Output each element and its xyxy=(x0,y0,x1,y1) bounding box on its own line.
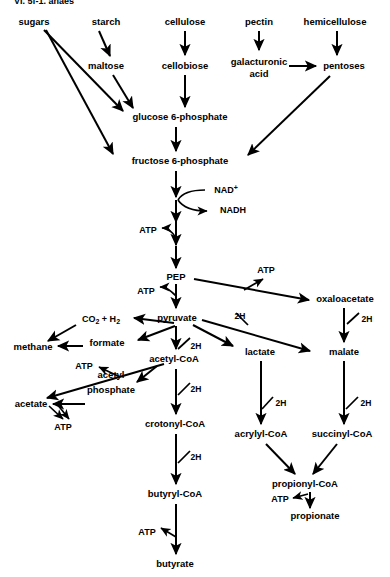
node-atp-propionate: ATP xyxy=(271,494,288,504)
node-acetyl-coa: acetyl-CoA xyxy=(149,353,199,364)
label-2h-oxaloacetate-malate: 2H xyxy=(362,314,373,324)
node-propionate: propionate xyxy=(290,510,339,521)
node-sugars: sugars xyxy=(18,16,49,27)
label-2h-lactate-acrylyl: 2H xyxy=(276,398,287,408)
label-2h-crotonyl-butyryl: 2H xyxy=(191,452,202,462)
edge-pyruvate-acetylcoa xyxy=(176,326,190,349)
edge-atp-pep-left-out xyxy=(160,287,176,296)
label-2h-pyruvate-acetyl: 2H xyxy=(191,341,202,351)
pathway-diagram: VI. 5f-1. anaes xyxy=(0,0,390,577)
edge-co2h2-methane xyxy=(48,325,76,341)
node-co2-h2: CO2 + H2 xyxy=(82,314,120,324)
edge-succinyl-propionyl xyxy=(313,444,337,474)
edge-starch-maltose xyxy=(99,31,110,56)
node-atp-glycolysis: ATP xyxy=(139,225,156,235)
node-pep: PEP xyxy=(166,271,186,282)
node-butyrate: butyrate xyxy=(156,558,193,569)
node-glucose-6-phosphate: glucose 6-phosphate xyxy=(132,111,227,122)
intermediate-labels: maltose cellobiose galacturonic acid pen… xyxy=(87,56,374,499)
edge-lactate-acrylyl xyxy=(261,361,273,424)
node-formate: formate xyxy=(90,337,125,348)
pathway-canvas: sugars starch cellulose pectin hemicellu… xyxy=(0,0,390,577)
node-lactate: lactate xyxy=(245,346,275,357)
node-acrylyl-coa: acrylyl-CoA xyxy=(235,428,288,439)
node-oxaloacetate: oxaloacetate xyxy=(316,293,374,304)
edge-pyruvate-formate xyxy=(138,326,175,340)
node-starch: starch xyxy=(92,16,121,27)
label-2h-acetylcoa-crotonyl: 2H xyxy=(191,384,202,394)
node-fructose-6-phosphate: fructose 6-phosphate xyxy=(132,155,229,166)
node-atp-pep-left: ATP xyxy=(137,286,154,296)
edge-propionyl-propionate xyxy=(293,492,310,508)
edge-nad-input xyxy=(178,190,205,200)
node-malate: malate xyxy=(329,346,359,357)
node-cellulose: cellulose xyxy=(165,16,206,27)
edge-acetylcoa-crotonyl xyxy=(176,369,190,414)
node-atp-butyrate: ATP xyxy=(138,527,155,537)
label-2h-lactate: 2H xyxy=(235,311,246,321)
edge-crotonyl-butyryl xyxy=(176,434,190,484)
node-methane: methane xyxy=(13,341,52,352)
edge-pep-oxaloacetate xyxy=(194,279,309,300)
node-atp-acetate: ATP xyxy=(54,422,71,432)
node-nad-plus: NAD+ xyxy=(214,184,238,196)
edge-atp-acetate-out xyxy=(49,404,69,419)
label-2h-malate-succinyl: 2H xyxy=(361,398,372,408)
node-atp-pep-right: ATP xyxy=(257,265,274,275)
node-pentoses: pentoses xyxy=(323,60,365,71)
edge-nadh-output xyxy=(178,200,207,211)
node-succinyl-coa: succinyl-CoA xyxy=(312,428,373,439)
edge-acrylyl-propionyl xyxy=(266,444,295,474)
node-maltose: maltose xyxy=(88,60,124,71)
node-acetate: acetate xyxy=(15,398,48,409)
node-galacturonic-acid: galacturonic xyxy=(231,56,288,67)
edge-atp-pep-right-out xyxy=(244,279,263,290)
node-crotonyl-coa: crotonyl-CoA xyxy=(145,418,205,429)
node-propionyl-coa: propionyl-CoA xyxy=(272,478,338,489)
node-acetyl-phosphate-line1: acetyl xyxy=(98,369,125,380)
edge-butyryl-butyrate xyxy=(161,504,176,554)
edge-pentoses-fructose6p xyxy=(248,76,330,155)
node-acetyl-phosphate-line2: phosphate xyxy=(87,384,135,395)
node-pyruvate: pyruvate xyxy=(157,312,197,323)
edge-malate-succinyl xyxy=(344,361,358,424)
reducing-equivalent-labels: 2H 2H 2H 2H 2H 2H 2H xyxy=(191,311,373,462)
node-atp-acetyl: ATP xyxy=(75,361,92,371)
node-butyryl-coa: butyryl-CoA xyxy=(148,488,203,499)
substrate-labels: sugars starch cellulose pectin hemicellu… xyxy=(18,16,366,27)
edge-sugars-fructose6p xyxy=(46,30,113,154)
node-hemicellulose: hemicellulose xyxy=(304,16,367,27)
node-pectin: pectin xyxy=(245,16,273,27)
edge-oxaloacetate-malate xyxy=(344,308,359,342)
node-galacturonic-acid-line2: acid xyxy=(249,68,268,79)
node-nadh: NADH xyxy=(220,205,246,215)
node-cellobiose: cellobiose xyxy=(162,60,208,71)
edge-atp-glycolysis-out xyxy=(162,228,176,238)
